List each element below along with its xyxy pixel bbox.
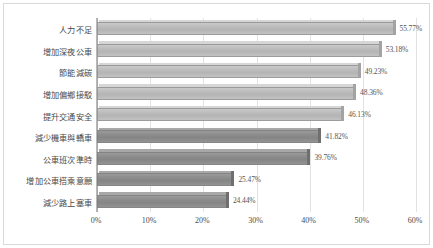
bar-value-label: 39.76% bbox=[314, 153, 337, 162]
x-tick-label: 0% bbox=[91, 216, 102, 225]
bar-end-cap bbox=[353, 84, 356, 100]
bar-front-face bbox=[97, 108, 342, 121]
x-tick-label: 10% bbox=[142, 216, 157, 225]
bar-end-cap bbox=[231, 171, 234, 187]
bar-row: 39.76% bbox=[97, 147, 416, 169]
bar-front-face bbox=[97, 152, 308, 165]
bar-value-label: 46.13% bbox=[348, 110, 371, 119]
bar[interactable] bbox=[97, 44, 380, 57]
bar-value-label: 25.47% bbox=[238, 175, 261, 184]
bar-front-face bbox=[97, 130, 319, 143]
bar-front-face bbox=[97, 87, 354, 100]
plot-area: 55.77%53.18%49.23%48.36%46.13%41.82%39.7… bbox=[96, 18, 416, 212]
bar-front-face bbox=[97, 44, 380, 57]
bar-end-cap bbox=[318, 128, 321, 144]
value-axis-ticks: 0%10%20%30%40%50%60% bbox=[96, 214, 416, 232]
bar-front-face bbox=[97, 65, 359, 78]
bar[interactable] bbox=[97, 130, 319, 143]
bar-row: 41.82% bbox=[97, 126, 416, 148]
bar-end-cap bbox=[358, 63, 361, 79]
bar[interactable] bbox=[97, 152, 308, 165]
bar[interactable] bbox=[97, 22, 394, 35]
bar-value-label: 49.23% bbox=[365, 67, 388, 76]
x-tick-label: 40% bbox=[301, 216, 316, 225]
bar[interactable] bbox=[97, 87, 354, 100]
bar-value-label: 41.82% bbox=[325, 132, 348, 141]
bar-front-face bbox=[97, 22, 394, 35]
bar-row: 49.23% bbox=[97, 61, 416, 83]
bar[interactable] bbox=[97, 173, 232, 186]
bar-value-label: 55.77% bbox=[400, 24, 423, 33]
bar-row: 46.13% bbox=[97, 104, 416, 126]
category-axis: 人力不足增加深夜公車節能減碳增加偏鄉接駁提升交通安全減少機車與轎車公車班次準時增… bbox=[0, 18, 92, 212]
bar[interactable] bbox=[97, 65, 359, 78]
x-tick-label: 20% bbox=[195, 216, 210, 225]
bar-value-label: 48.36% bbox=[360, 88, 383, 97]
category-label: 增加偏鄉接駁 bbox=[0, 88, 92, 100]
category-label: 增加公車搭乘意願 bbox=[0, 174, 92, 186]
bar[interactable] bbox=[97, 108, 342, 121]
bar-end-cap bbox=[393, 20, 396, 36]
x-tick-label: 30% bbox=[248, 216, 263, 225]
bar-end-cap bbox=[307, 149, 310, 165]
bar-front-face bbox=[97, 195, 227, 208]
category-label: 增加深夜公車 bbox=[0, 45, 92, 57]
x-tick-label: 50% bbox=[354, 216, 369, 225]
bar-value-label: 24.44% bbox=[233, 196, 256, 205]
x-tick-label: 60% bbox=[408, 216, 423, 225]
category-label: 公車班次準時 bbox=[0, 153, 92, 165]
bar-row: 55.77% bbox=[97, 18, 416, 40]
category-label: 人力不足 bbox=[0, 23, 92, 35]
category-label: 提升交通安全 bbox=[0, 110, 92, 122]
bar-front-face bbox=[97, 173, 232, 186]
bar-end-cap bbox=[226, 192, 229, 208]
bar-value-label: 53.18% bbox=[386, 45, 409, 54]
bar-row: 53.18% bbox=[97, 40, 416, 62]
bar-end-cap bbox=[341, 106, 344, 122]
bar-row: 48.36% bbox=[97, 83, 416, 105]
bar-end-cap bbox=[379, 41, 382, 57]
gridline bbox=[416, 18, 417, 212]
category-label: 減少路上塞車 bbox=[0, 196, 92, 208]
category-label: 減少機車與轎車 bbox=[0, 131, 92, 143]
bar-row: 24.44% bbox=[97, 190, 416, 212]
bar-row: 25.47% bbox=[97, 169, 416, 191]
category-label: 節能減碳 bbox=[0, 66, 92, 78]
bar[interactable] bbox=[97, 195, 227, 208]
bar-chart: 人力不足增加深夜公車節能減碳增加偏鄉接駁提升交通安全減少機車與轎車公車班次準時增… bbox=[0, 0, 433, 248]
